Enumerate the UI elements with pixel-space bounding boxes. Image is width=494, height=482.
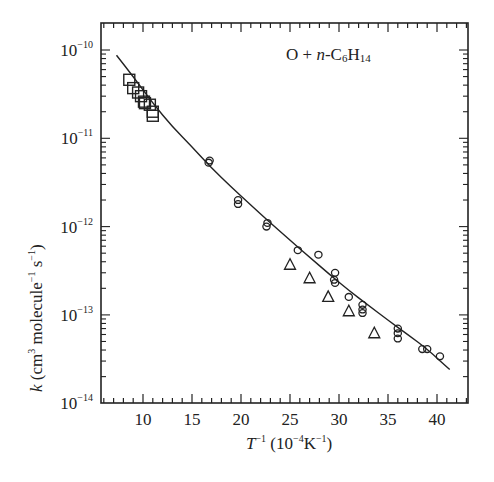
y-tick-labels: 10−1010−1110−1210−1310−14 <box>60 39 93 413</box>
triangle-marker <box>369 327 380 338</box>
x-tick-label: 40 <box>429 410 446 429</box>
x-tick-label: 20 <box>233 410 250 429</box>
x-tick-labels: 10152025303540 <box>135 410 446 429</box>
y-tick-label: 10−12 <box>60 216 93 237</box>
y-tick-label: 10−14 <box>60 392 93 413</box>
circle-marker <box>331 269 338 276</box>
axis-ticks <box>101 23 468 403</box>
x-tick-label: 25 <box>282 410 299 429</box>
x-axis-title: T−1 (10−4K−1) <box>246 433 332 453</box>
y-tick-label: 10−13 <box>60 304 93 325</box>
circle-marker <box>345 293 352 300</box>
x-tick-label: 10 <box>135 410 152 429</box>
circle-marker <box>436 353 443 360</box>
triangle-marker <box>343 305 354 316</box>
chart: 10−1010−1110−1210−1310−14 10152025303540… <box>0 0 494 482</box>
y-tick-label: 10−11 <box>61 127 93 148</box>
x-tick-label: 30 <box>331 410 348 429</box>
plot-border <box>101 23 468 403</box>
reaction-annotation: O + n-C6H14 <box>286 45 371 64</box>
triangle-marker <box>304 272 315 283</box>
triangle-marker <box>323 291 334 302</box>
x-tick-label: 15 <box>184 410 201 429</box>
triangle-marker <box>285 259 296 270</box>
x-tick-label: 35 <box>380 410 397 429</box>
fit-curve <box>117 55 450 369</box>
y-axis-title: k (cm3 molecule−1 s−1) <box>26 244 46 392</box>
y-tick-label: 10−10 <box>60 39 93 60</box>
square-marker <box>147 110 158 121</box>
data-markers <box>124 74 444 359</box>
circle-marker <box>315 251 322 258</box>
plot-frame <box>101 23 468 403</box>
